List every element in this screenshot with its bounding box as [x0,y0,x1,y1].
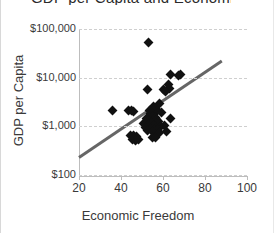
gridline-y [79,78,247,79]
x-tick-label: 100 [232,181,262,195]
chart-page: GDP per Capita and Economic Freedom $100… [0,0,274,233]
y-tick-label: $1,000 [42,119,76,131]
gridline-y [79,29,247,30]
y-tick-label: $100 [52,168,76,180]
x-tick-mark [163,176,164,180]
x-tick-mark [247,176,248,180]
x-tick-label: 40 [106,181,136,195]
x-tick-label: 20 [64,181,94,195]
x-tick-label: 80 [190,181,220,195]
x-tick-mark [121,176,122,180]
plot-area [79,29,247,175]
y-tick-label: $100,000 [30,22,76,34]
x-tick-mark [205,176,206,180]
x-tick-label: 60 [148,181,178,195]
x-tick-mark [79,176,80,180]
y-tick-label: $10,000 [36,71,76,83]
y-axis-title: GDP per Capita [11,41,26,161]
x-axis-title: Economic Freedom [1,208,274,223]
